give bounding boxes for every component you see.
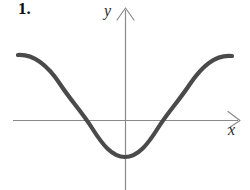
- problem-number-label: 1.: [18, 0, 31, 17]
- figure-container: 1. y x: [0, 0, 250, 190]
- y-axis-label: y: [104, 3, 111, 19]
- x-axis-label: x: [228, 122, 235, 138]
- graph-canvas: [0, 0, 250, 190]
